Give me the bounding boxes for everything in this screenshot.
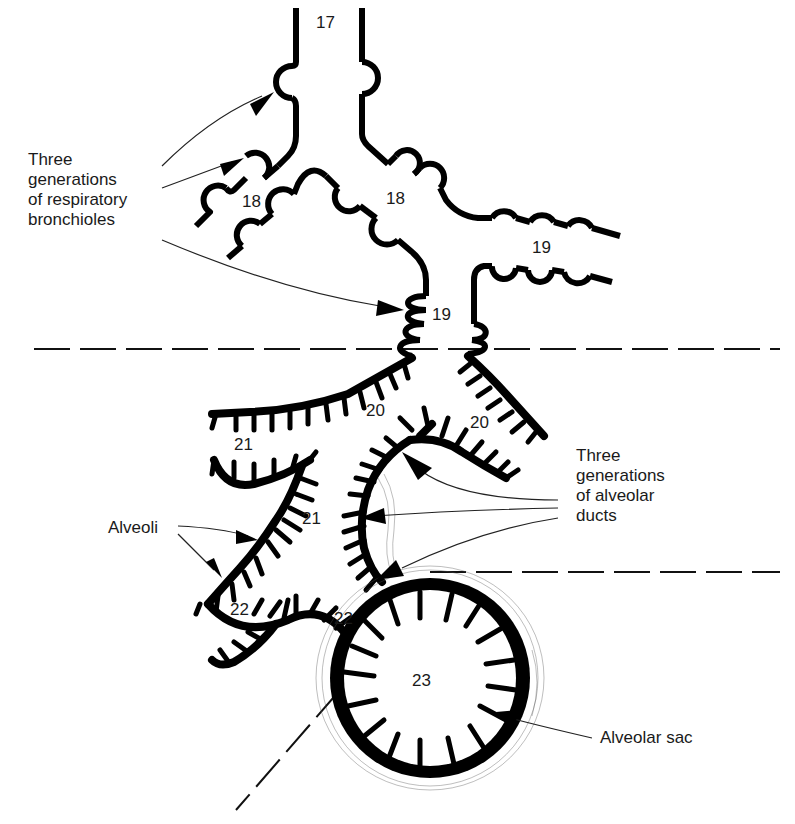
label-line: generations — [576, 466, 665, 486]
label-line: Three — [28, 150, 127, 170]
zone-divider-diagonal — [236, 690, 340, 810]
airway-diagram — [0, 0, 795, 824]
label-alveolar-ducts: Three generations of alveolar ducts — [576, 446, 665, 526]
generation-label-21-center: 21 — [302, 510, 321, 528]
generation-label-20-left: 20 — [366, 402, 385, 420]
label-line: bronchioles — [28, 210, 127, 230]
pointer-alveoli — [178, 526, 258, 578]
generation-label-20-right: 20 — [470, 414, 489, 432]
generation-label-18-right: 18 — [386, 190, 405, 208]
pointer-alveolar-ducts — [360, 452, 558, 580]
generation-label-19-center: 19 — [432, 306, 451, 324]
generation-label-23: 23 — [412, 672, 431, 690]
bronchiole-generation-19-right — [474, 211, 620, 324]
label-line: generations — [28, 170, 127, 190]
label-respiratory-bronchioles: Three generations of respiratory bronchi… — [28, 150, 127, 230]
generation-label-22-left: 22 — [230, 601, 249, 619]
bronchiole-generation-18-left-lower — [228, 171, 426, 284]
pointer-respiratory-bronchioles — [162, 92, 404, 316]
label-line: Three — [576, 446, 665, 466]
generation-label-17: 17 — [316, 14, 335, 32]
alveolar-duct-generation-21-left — [196, 452, 316, 614]
label-alveoli: Alveoli — [108, 518, 158, 538]
label-line: of respiratory — [28, 190, 127, 210]
label-line: ducts — [576, 506, 665, 526]
generation-label-19-right: 19 — [532, 239, 551, 257]
generation-label-21-left: 21 — [234, 436, 253, 454]
label-alveolar-sac: Alveolar sac — [600, 728, 693, 748]
generation-label-18-left: 18 — [242, 193, 261, 211]
generation-label-22-right: 22 — [334, 610, 353, 628]
label-line: of alveolar — [576, 486, 665, 506]
